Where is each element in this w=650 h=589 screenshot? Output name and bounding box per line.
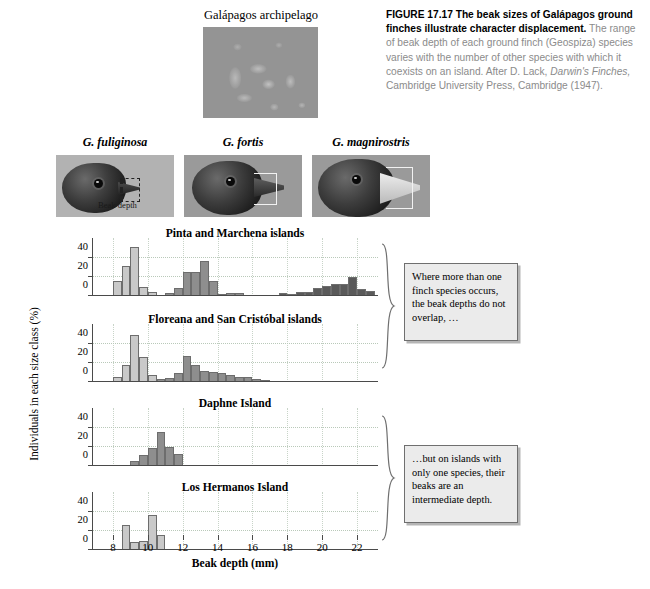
figure-number: FIGURE 17.17	[386, 9, 453, 20]
x-axis-line	[92, 465, 378, 466]
gridline-vertical	[113, 324, 114, 382]
gridline-horizontal	[92, 446, 378, 447]
gridline-vertical	[218, 408, 219, 466]
histogram-bar	[122, 365, 131, 382]
histogram-bar	[183, 356, 192, 382]
gridline-vertical	[148, 238, 149, 296]
figure-body-2: Cambridge University Press, Cambridge (1…	[386, 80, 603, 91]
beak-depth-annotation: Beak depth	[98, 200, 137, 210]
gridline-vertical	[287, 324, 288, 382]
histogram-bar	[191, 365, 200, 382]
chart-panel-pinta-marchena: Pinta and Marchena islands 02040	[92, 244, 378, 296]
gridline-vertical	[287, 238, 288, 296]
gridline-horizontal	[92, 511, 378, 512]
x-axis-tick-label: 18	[282, 541, 293, 553]
chart-panel-floreana-cristobal: Floreana and San Cristóbal islands 02040	[92, 330, 378, 382]
histogram-bar	[148, 448, 157, 466]
x-axis-tick-mark	[113, 535, 114, 540]
x-axis-tick-mark	[287, 535, 288, 540]
gridline-horizontal	[92, 530, 378, 531]
x-axis-tick-label: 20	[317, 541, 328, 553]
y-axis-tick-label: 40	[78, 241, 89, 252]
y-axis-tick-label: 40	[78, 327, 89, 338]
brace-bottom	[380, 414, 396, 542]
panel-title: Daphne Island	[92, 397, 378, 410]
gridline-vertical	[357, 408, 358, 466]
x-axis-tick-label: 16	[247, 541, 258, 553]
gridline-vertical	[357, 324, 358, 382]
gridline-horizontal	[92, 427, 378, 428]
bird-eye	[94, 179, 103, 188]
x-axis-tick-label: 8	[110, 541, 116, 553]
bird-head	[192, 161, 262, 215]
histogram-bar	[200, 261, 209, 296]
y-axis-label: Individuals in each size class (%)	[28, 254, 40, 514]
x-axis-tick-mark	[252, 535, 253, 540]
histogram-bar	[130, 247, 139, 296]
x-axis-tick-mark	[148, 535, 149, 540]
panel-title: Los Hermanos Island	[92, 481, 378, 494]
callout-intermediate: …but on islands with only one species, t…	[404, 445, 518, 523]
bird-eye	[352, 175, 361, 184]
x-axis-tick-mark	[183, 535, 184, 540]
x-axis-line	[92, 381, 378, 382]
histogram-bar	[113, 281, 122, 296]
gridline-vertical	[322, 408, 323, 466]
x-axis-tick-label: 22	[352, 541, 363, 553]
y-axis-line	[92, 324, 93, 382]
figure-container: FIGURE 17.17 The beak sizes of Galápagos…	[0, 0, 650, 589]
beak-depth-bracket	[120, 178, 140, 202]
beak-depth-bracket	[386, 167, 413, 209]
gridline-vertical	[252, 408, 253, 466]
gridline-vertical	[252, 238, 253, 296]
x-axis-tick-label: 12	[177, 541, 188, 553]
gridline-vertical	[113, 408, 114, 466]
histogram-bar	[348, 277, 357, 296]
y-axis-tick-label: 20	[78, 430, 89, 441]
y-axis-tick-label: 0	[83, 449, 88, 460]
archipelago-label: Galápagos archipelago	[176, 8, 346, 23]
histogram-bar	[157, 432, 166, 466]
histogram-bar	[191, 272, 200, 296]
y-axis-line	[92, 408, 93, 466]
finch-photo-fortis	[184, 155, 302, 217]
species-label-magnirostris: G. magnirostris	[312, 135, 430, 150]
bird-eye	[226, 177, 235, 186]
x-axis-tick-label: 14	[212, 541, 223, 553]
y-axis-tick-label: 20	[78, 346, 89, 357]
x-axis-tick-label: 10	[142, 541, 153, 553]
gridline-vertical	[357, 238, 358, 296]
x-axis-label: Beak depth (mm)	[92, 557, 378, 570]
gridline-vertical	[252, 324, 253, 382]
y-axis-line	[92, 238, 93, 296]
beak-depth-bracket	[254, 173, 277, 205]
histogram-bar	[209, 281, 218, 296]
species-label-fuliginosa: G. fuliginosa	[56, 135, 174, 150]
x-axis-line	[92, 295, 378, 296]
archipelago-map-image	[203, 27, 318, 118]
y-axis-tick-label: 20	[78, 514, 89, 525]
y-axis-tick-label: 20	[78, 260, 89, 271]
species-label-fortis: G. fortis	[184, 135, 302, 150]
panel-title: Floreana and San Cristóbal islands	[92, 313, 378, 326]
y-axis-tick-label: 0	[83, 279, 88, 290]
chart-panel-daphne: Daphne Island 02040	[92, 414, 378, 466]
histogram-bar	[122, 266, 131, 296]
histogram-bar	[130, 335, 139, 382]
panel-title: Pinta and Marchena islands	[92, 227, 378, 240]
gridline-vertical	[322, 324, 323, 382]
y-axis-tick-label: 40	[78, 411, 89, 422]
y-axis-tick-label: 40	[78, 495, 89, 506]
histogram-bar	[165, 447, 174, 466]
histogram-bar	[183, 272, 192, 296]
x-axis-tick-mark	[357, 535, 358, 540]
brace-top	[380, 242, 396, 370]
gridline-vertical	[148, 324, 149, 382]
gridline-vertical	[287, 408, 288, 466]
x-axis-tick-mark	[218, 535, 219, 540]
finch-photo-magnirostris	[312, 155, 430, 217]
gridline-vertical	[218, 238, 219, 296]
figure-source: Darwin's Finches,	[550, 66, 630, 77]
y-axis-tick-label: 0	[83, 365, 88, 376]
gridline-vertical	[183, 408, 184, 466]
